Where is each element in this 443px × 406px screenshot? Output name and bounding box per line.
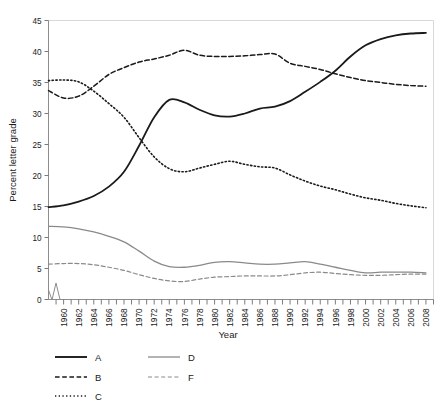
x-tick-label: 1972: [150, 308, 159, 327]
y-tick-label: 15: [32, 203, 42, 212]
legend-label-a: A: [95, 352, 102, 363]
x-tick-label: 1962: [75, 308, 84, 327]
y-axis-ticks: [45, 21, 49, 300]
x-tick-label: 1984: [241, 308, 250, 327]
y-tick-label: 20: [32, 172, 42, 181]
x-tick-label: 2004: [392, 308, 401, 327]
x-tick-label: 1970: [135, 308, 144, 327]
x-tick-label: 1980: [211, 308, 220, 327]
y-tick-label: 10: [32, 234, 42, 243]
x-tick-label: 2000: [362, 308, 371, 327]
legend-label-b: B: [95, 372, 101, 383]
x-axis-ticks: [56, 300, 433, 305]
x-tick-label: 1986: [256, 308, 265, 327]
x-tick-label: 1988: [271, 308, 280, 327]
x-tick-label: 2008: [422, 308, 431, 327]
axis-break-icon: [49, 283, 61, 300]
series-line-d: [49, 226, 426, 273]
x-tick-label: 1974: [165, 308, 174, 327]
x-axis-title: Year: [218, 329, 237, 340]
x-tick-label: 1968: [120, 308, 129, 327]
series-lines: [49, 33, 426, 282]
x-tick-label: 1996: [332, 308, 341, 327]
x-tick-label: 1978: [196, 308, 205, 327]
y-tick-label: 0: [37, 296, 42, 305]
y-tick-label: 25: [32, 141, 42, 150]
x-tick-label: 1982: [226, 308, 235, 327]
y-tick-label: 35: [32, 79, 42, 88]
x-tick-label: 1990: [286, 308, 295, 327]
series-line-b: [49, 50, 426, 98]
y-tick-label: 45: [32, 17, 42, 26]
y-axis-title: Percent letter grade: [7, 118, 18, 201]
x-axis-tick-labels: 1960196219641966196819701972197419761978…: [60, 308, 431, 327]
legend-label-c: C: [95, 391, 102, 402]
y-tick-label: 30: [32, 110, 42, 119]
chart-legend: ADBFC: [55, 352, 195, 402]
chart-figure: 051015202530354045 196019621964196619681…: [0, 0, 443, 406]
y-tick-label: 40: [32, 48, 42, 57]
x-tick-label: 1998: [347, 308, 356, 327]
x-tick-label: 1960: [60, 308, 69, 327]
x-tick-label: 1964: [90, 308, 99, 327]
legend-label-f: F: [188, 372, 194, 383]
x-tick-label: 2006: [407, 308, 416, 327]
series-line-a: [49, 33, 426, 207]
line-chart: 051015202530354045 196019621964196619681…: [0, 0, 443, 406]
legend-label-d: D: [188, 352, 195, 363]
x-tick-label: 1976: [181, 308, 190, 327]
x-tick-label: 2002: [377, 308, 386, 327]
x-tick-label: 1966: [105, 308, 114, 327]
x-tick-label: 1994: [316, 308, 325, 327]
y-axis-tick-labels: 051015202530354045: [32, 17, 42, 305]
x-tick-label: 1992: [301, 308, 310, 327]
y-tick-label: 5: [37, 265, 42, 274]
